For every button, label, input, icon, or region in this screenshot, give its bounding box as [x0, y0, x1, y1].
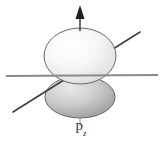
p-orbital-figure: pz [0, 0, 162, 147]
z-axis-arrowhead [76, 5, 85, 19]
orbital-label-subscript: z [83, 128, 87, 138]
orbital-label-base: p [75, 117, 83, 133]
orbital-label: pz [0, 118, 162, 136]
horizontal-axis-line [6, 75, 158, 76]
